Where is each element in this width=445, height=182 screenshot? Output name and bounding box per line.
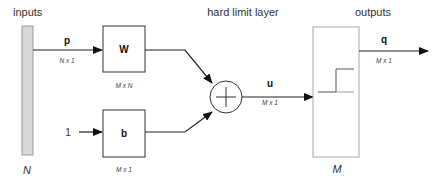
q-dim: M x 1 xyxy=(376,57,392,64)
bias-to-sum-arrow xyxy=(145,112,212,132)
bias-dim: M x 1 xyxy=(116,166,132,173)
u-dim: M x 1 xyxy=(262,99,278,106)
p-dim: N x 1 xyxy=(59,57,75,64)
inputs-title: inputs xyxy=(13,6,43,18)
input-size-label: N xyxy=(23,164,31,176)
weight-dim: M x N xyxy=(116,82,133,89)
outputs-title: outputs xyxy=(355,6,392,18)
layer-title: hard limit layer xyxy=(207,6,279,18)
q-label: q xyxy=(381,34,387,45)
input-vector-bar xyxy=(22,26,33,155)
bias-label: b xyxy=(121,128,127,139)
p-label: p xyxy=(64,35,70,46)
bias-input-label: 1 xyxy=(65,127,71,138)
perceptron-diagram: inputs hard limit layer outputs N p N x … xyxy=(0,0,445,182)
weight-to-sum-arrow xyxy=(145,50,212,83)
weight-label: W xyxy=(119,44,129,55)
u-label: u xyxy=(267,78,273,89)
layer-size-label: M xyxy=(332,163,342,175)
